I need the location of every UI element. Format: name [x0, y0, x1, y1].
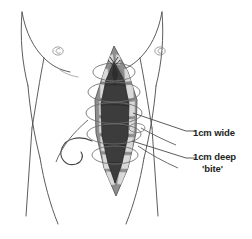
nipple-right: [155, 47, 165, 55]
nipple-left: [53, 47, 63, 55]
wound-closure-diagram: [0, 0, 252, 239]
label-1cm-wide: 1cm wide: [193, 127, 235, 139]
leader-line-deep: [132, 141, 196, 158]
label-1cm-deep-bite: 1cm deep 'bite': [193, 151, 236, 174]
torso-outline: [21, 12, 163, 224]
umbilicus: [61, 138, 92, 165]
leader-lines: [132, 113, 196, 158]
label-1cm-deep-line1: 1cm deep: [193, 151, 236, 162]
illustration-canvas: 1cm wide 1cm deep 'bite': [0, 0, 252, 239]
label-1cm-wide-text: 1cm wide: [193, 127, 235, 138]
label-bite-line2: 'bite': [193, 163, 236, 175]
